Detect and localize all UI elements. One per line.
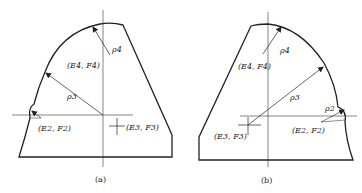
rho3-arrow-b (248, 67, 323, 125)
label-rho3-a: ρ3 (66, 92, 77, 101)
label-rho4-a: ρ4 (111, 45, 122, 54)
panel-b: ρ4 (E4, F4) ρ3 ρ2 (E3, F3) (E2, F2) (b) (199, 12, 357, 185)
caption-a: (a) (95, 175, 106, 184)
label-e2f2-a: (E2, F2) (38, 124, 71, 133)
label-e2f2-b: (E2, F2) (292, 126, 325, 135)
center-cross-e3f3-a (109, 118, 125, 135)
label-rho2-b: ρ2 (324, 104, 335, 113)
profile-outline-a (19, 23, 172, 157)
rho2-arrow-a (32, 111, 41, 118)
label-rho3-b: ρ3 (289, 93, 300, 102)
label-rho4-b: ρ4 (279, 46, 290, 55)
label-e4f4-b: (E4, F4) (238, 62, 271, 71)
label-e4f4-a: (E4, F4) (67, 61, 100, 70)
rho4-arrow-b (263, 27, 281, 54)
rho4-arrow-a (93, 27, 110, 55)
caption-b: (b) (261, 176, 272, 185)
panel-a: ρ4 (E4, F4) ρ3 (E2, F2) (E3, F3) (a) (12, 10, 172, 184)
diagram-canvas: ρ4 (E4, F4) ρ3 (E2, F2) (E3, F3) (a) ρ4 … (0, 0, 362, 193)
label-e3f3-b: (E3, F3) (214, 132, 247, 141)
label-e3f3-a: (E3, F3) (126, 123, 159, 132)
